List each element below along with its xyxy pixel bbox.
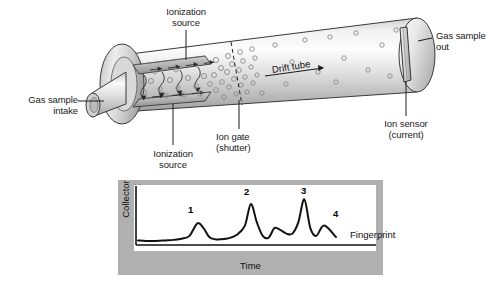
label-ionization-source-bottom: Ionization source — [138, 148, 208, 170]
label-ionization-source-top: Ionization source — [151, 6, 221, 28]
spectrum-trace — [138, 199, 336, 241]
spectrum-chart-panel: Collector current 1 2 3 4 Fingerprint Ti… — [118, 180, 383, 275]
figure-root: Ionization source Gas sample intake Gas … — [0, 0, 502, 283]
peak-label-4: 4 — [333, 208, 338, 219]
label-gas-sample-intake: Gas sample intake — [0, 94, 78, 116]
peak-label-3: 3 — [301, 185, 306, 196]
peak-label-1: 1 — [188, 204, 193, 215]
label-gas-sample-out: Gas sample out — [436, 30, 502, 52]
fingerprint-annotation: Fingerprint — [350, 229, 395, 240]
peak-label-2: 2 — [244, 186, 249, 197]
label-ion-sensor: Ion sensor (current) — [371, 118, 441, 140]
chart-x-axis-label: Time — [118, 260, 383, 271]
label-ion-gate: Ion gate (shutter) — [216, 131, 286, 153]
chart-plot-area: 1 2 3 4 Fingerprint — [134, 185, 376, 251]
spectrum-curve-svg — [134, 185, 376, 251]
